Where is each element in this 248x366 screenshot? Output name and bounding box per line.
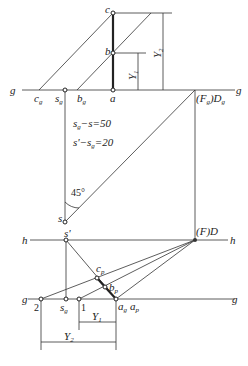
point-d: [193, 238, 197, 242]
label-y1-bottom: Y1: [92, 310, 102, 324]
label-h-left: h: [22, 234, 28, 246]
label-ag-ap: agap: [118, 300, 140, 314]
label-cp: cp: [96, 262, 105, 276]
label-sp: s': [64, 227, 71, 239]
label-g-top-left: g: [10, 84, 16, 96]
label-angle: 45°: [71, 187, 85, 198]
label-y1-top: Y1: [126, 70, 140, 80]
line-45deg: [65, 90, 195, 222]
label-sg-top: sg: [55, 92, 63, 106]
label-s: s: [58, 212, 62, 224]
perspective-diagram: g g c b a cg sg bg (Fg)Dg Y1 Y2 sg−s=50 …: [0, 0, 248, 366]
point-c: [111, 11, 115, 15]
label-1: 1: [81, 302, 86, 313]
label-sg-bottom: sg: [60, 301, 68, 315]
label-cg: cg: [34, 92, 43, 106]
line-d-2: [41, 240, 195, 299]
label-eq2: s'−sg=20: [73, 136, 114, 150]
point-sg-bottom: [64, 297, 68, 301]
label-g-bottom-left: g: [22, 293, 28, 305]
point-cp: [95, 276, 99, 280]
point-b: [111, 51, 115, 55]
point-1: [77, 297, 81, 301]
angle-arc: [65, 202, 79, 208]
label-y2-top: Y2: [151, 48, 165, 58]
label-fg-dg: (Fg)Dg: [196, 92, 226, 106]
label-c: c: [105, 3, 110, 15]
label-2: 2: [34, 302, 39, 313]
point-bp: [103, 285, 107, 289]
label-fd: (F)D: [196, 225, 218, 238]
label-g-bottom-right: g: [232, 293, 238, 305]
point-2: [39, 297, 43, 301]
label-a: a: [110, 92, 116, 104]
label-bg: bg: [77, 92, 87, 106]
point-sg-top: [63, 88, 67, 92]
line-d-ag: [116, 240, 195, 299]
label-g-top-right: g: [236, 84, 242, 96]
label-eq1: sg−s=50: [73, 117, 111, 131]
label-bp: bp: [109, 281, 119, 295]
label-b: b: [105, 45, 111, 57]
label-y2-bottom: Y2: [64, 330, 74, 344]
diag-c-cg: [39, 13, 113, 90]
label-h-right: h: [230, 234, 236, 246]
point-s: [63, 220, 67, 224]
